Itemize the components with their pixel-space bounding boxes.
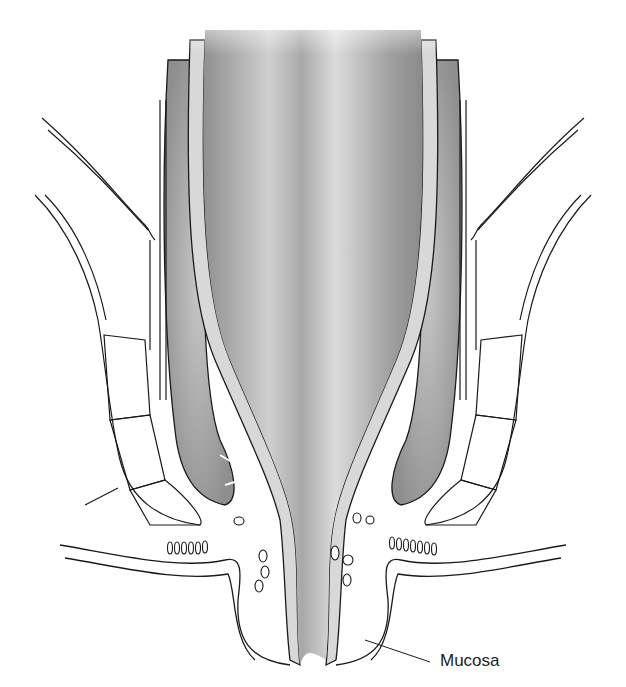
- rectal-lumen: [203, 30, 422, 665]
- mucosa-label: Mucosa: [440, 651, 500, 671]
- mucosa-leader-line: [365, 640, 430, 662]
- anatomical-diagram: Mucosa: [0, 0, 626, 687]
- anal-canal-illustration: [0, 0, 626, 687]
